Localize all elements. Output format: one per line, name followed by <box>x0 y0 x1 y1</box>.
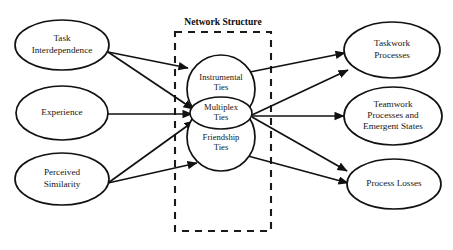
node-process-losses[interactable]: Process Losses <box>347 159 441 209</box>
experience-label: Experience <box>41 107 82 117</box>
network-structure-diagram: Network Structure TaskInterdependenceExp… <box>0 0 453 250</box>
arrow-friendship-to-process-losses <box>248 156 348 183</box>
process-losses-label: Process Losses <box>366 178 422 188</box>
node-taskwork-processes[interactable]: TaskworkProcesses <box>344 22 440 78</box>
node-experience[interactable]: Experience <box>16 86 108 140</box>
network-node-group: InstrumentalTiesFriendshipTiesMultiplexT… <box>187 55 255 171</box>
perceived-similarity-label: PerceivedSimilarity <box>44 168 81 189</box>
node-teamwork-processes[interactable]: TeamworkProcesses andEmergent States <box>344 87 442 145</box>
network-structure-title: Network Structure <box>184 16 262 27</box>
outcome-node-group: TaskworkProcessesTeamworkProcesses andEm… <box>344 22 442 209</box>
arrow-instrumental-to-taskwork <box>250 53 345 72</box>
figure-canvas: Network Structure TaskInterdependenceExp… <box>0 0 453 250</box>
node-task-interdependence[interactable]: TaskInterdependence <box>15 20 109 70</box>
arrow-multiplex-to-taskwork <box>252 70 348 115</box>
taskwork-processes-label: TaskworkProcesses <box>374 39 411 60</box>
arrow-multiplex-to-process-losses <box>252 117 347 171</box>
predictor-node-group: TaskInterdependenceExperiencePerceivedSi… <box>15 20 109 205</box>
node-perceived-similarity[interactable]: PerceivedSimilarity <box>15 153 109 205</box>
